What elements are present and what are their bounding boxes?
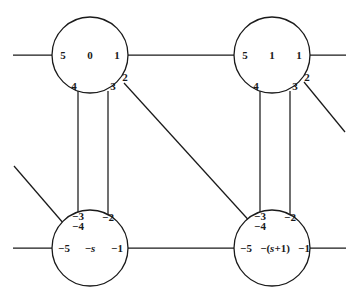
node-bottom-left-port-right: −1 (111, 243, 123, 254)
node-top-right-port-bottom-right: 3 (292, 81, 298, 92)
node-top-left-port-left: 5 (60, 50, 66, 61)
stub-top-right-southeast (304, 82, 345, 132)
node-bottom-right-center: −(s+1) (260, 243, 290, 254)
node-top-left-center: 0 (87, 50, 93, 61)
node-bottom-right-port-top-left-lower: −4 (254, 221, 266, 232)
node-bottom-right-port-left: −5 (240, 243, 252, 254)
node-top-left-port-bottom-left: 4 (71, 81, 77, 92)
node-top-left-port-bottom-right: 3 (110, 81, 116, 92)
node-top-right-center: 1 (269, 50, 275, 61)
node-top-right-port-right: 1 (296, 50, 302, 61)
node-bottom-right-port-top-right: −2 (284, 212, 296, 223)
node-bottom-left-port-top-right: −2 (102, 212, 114, 223)
node-bottom-right-port-right: −1 (298, 243, 310, 254)
node-bottom-left-port-left: −5 (58, 243, 70, 254)
node-top-right-port-outer-right: 2 (304, 72, 310, 83)
node-top-right-port-left: 5 (242, 50, 248, 61)
node-bottom-left-center: −s (85, 243, 96, 254)
edge-topleft-2-to-bottomright-34 (124, 83, 254, 226)
node-top-right-port-bottom-left: 4 (253, 81, 259, 92)
diagram-canvas: 5 0 1 2 3 4 5 1 1 2 3 4 −3 −4 −2 −5 −s −… (0, 0, 357, 298)
node-top-left-port-right: 1 (114, 50, 120, 61)
node-top-left-port-outer-right: 2 (122, 72, 128, 83)
stub-bottom-left-northwest (14, 166, 64, 224)
node-bottom-left-port-top-left-lower: −4 (72, 221, 84, 232)
